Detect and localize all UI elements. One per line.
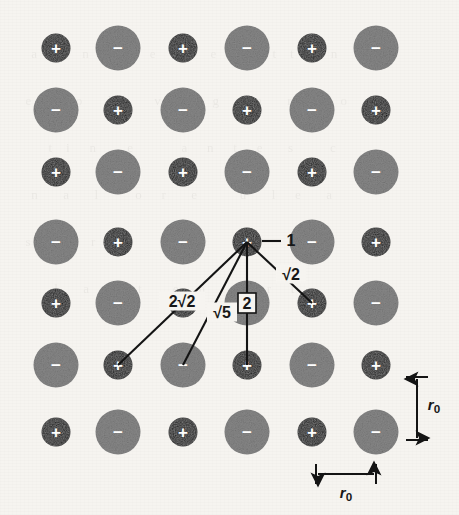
sqrt2-bond-label: √2 [276, 265, 306, 284]
plus-sign-icon: + [371, 356, 381, 375]
positive-ion: + [298, 418, 327, 447]
minus-sign-icon: − [242, 163, 252, 182]
plus-sign-icon: + [307, 294, 317, 313]
plus-sign-icon: + [178, 39, 188, 58]
negative-ion: − [354, 410, 399, 455]
negative-ion: − [354, 150, 399, 195]
minus-sign-icon: − [113, 163, 123, 182]
positive-ion: + [104, 228, 133, 257]
minus-sign-icon: − [242, 423, 252, 442]
plus-sign-icon: + [51, 423, 61, 442]
figure-canvas: a c n r e ti e s t t n e s o l v n g a r… [0, 0, 459, 515]
plus-sign-icon: + [307, 423, 317, 442]
plus-sign-icon: + [371, 101, 381, 120]
sqrt5-bond-label-text: √5 [213, 304, 231, 321]
positive-ion: + [42, 418, 71, 447]
minus-sign-icon: − [307, 233, 317, 252]
negative-ion: − [34, 343, 79, 388]
negative-ion: − [290, 343, 335, 388]
positive-ion: + [298, 34, 327, 63]
plus-sign-icon: + [113, 101, 123, 120]
minus-sign-icon: − [371, 294, 381, 313]
two-sqrt2-bond-label: 2√2 [159, 292, 205, 311]
plus-sign-icon: + [51, 39, 61, 58]
plus-sign-icon: + [178, 423, 188, 442]
vertical-scale-label: r0 [428, 396, 441, 415]
negative-ion: − [96, 150, 141, 195]
minus-sign-icon: − [307, 101, 317, 120]
positive-ion: + [362, 351, 391, 380]
plus-sign-icon: + [307, 163, 317, 182]
plus-sign-icon: + [51, 294, 61, 313]
ion-layer: +−+−+−−+−+−++−+−+−−+−+−++−+−+−−+−+−++−+−… [34, 26, 399, 455]
negative-ion: − [96, 281, 141, 326]
minus-sign-icon: − [113, 423, 123, 442]
minus-sign-icon: − [113, 39, 123, 58]
plus-sign-icon: + [242, 101, 252, 120]
plus-sign-icon: + [113, 356, 123, 375]
plus-sign-icon: + [307, 39, 317, 58]
negative-ion: − [161, 220, 206, 265]
minus-sign-icon: − [178, 101, 188, 120]
horizontal-scale-label: r0 [340, 484, 353, 503]
negative-ion: − [34, 88, 79, 133]
vertical-scale-bar: r0 [406, 377, 441, 440]
sqrt5-bond-label: √5 [207, 303, 237, 322]
positive-ion: + [362, 228, 391, 257]
positive-ion: + [169, 158, 198, 187]
minus-sign-icon: − [371, 423, 381, 442]
horizontal-scale-bar: r0 [316, 464, 376, 503]
positive-ion: + [42, 289, 71, 318]
positive-ion: + [233, 96, 262, 125]
two-bond-label-text: 2 [243, 295, 252, 312]
negative-ion: − [354, 281, 399, 326]
positive-ion: + [42, 158, 71, 187]
negative-ion: − [225, 26, 270, 71]
plus-sign-icon: + [113, 233, 123, 252]
minus-sign-icon: − [178, 233, 188, 252]
negative-ion: − [225, 410, 270, 455]
two-sqrt2-bond-label-text: 2√2 [169, 293, 196, 310]
positive-ion: + [298, 158, 327, 187]
minus-sign-icon: − [242, 39, 252, 58]
minus-sign-icon: − [307, 356, 317, 375]
positive-ion: + [42, 34, 71, 63]
minus-sign-icon: − [51, 101, 61, 120]
lattice-diagram: +−+−+−−+−+−++−+−+−−+−+−++−+−+−−+−+−++−+−… [0, 0, 459, 515]
positive-ion: + [362, 96, 391, 125]
negative-ion: − [96, 26, 141, 71]
negative-ion: − [161, 88, 206, 133]
minus-sign-icon: − [51, 233, 61, 252]
minus-sign-icon: − [51, 356, 61, 375]
plus-sign-icon: + [51, 163, 61, 182]
positive-ion: + [169, 418, 198, 447]
negative-ion: − [225, 150, 270, 195]
negative-ion: − [290, 220, 335, 265]
minus-sign-icon: − [113, 294, 123, 313]
negative-ion: − [34, 220, 79, 265]
reference-ion-label-text: 1 [287, 232, 296, 249]
positive-ion: + [104, 96, 133, 125]
minus-sign-icon: − [371, 163, 381, 182]
positive-ion: + [169, 34, 198, 63]
plus-sign-icon: + [371, 233, 381, 252]
two-bond-label: 2 [238, 293, 256, 313]
sqrt2-bond-label-text: √2 [282, 266, 300, 283]
plus-sign-icon: + [178, 163, 188, 182]
negative-ion: − [96, 410, 141, 455]
reference-ion-label: 1 [287, 232, 296, 249]
negative-ion: − [354, 26, 399, 71]
negative-ion: − [290, 88, 335, 133]
minus-sign-icon: − [371, 39, 381, 58]
